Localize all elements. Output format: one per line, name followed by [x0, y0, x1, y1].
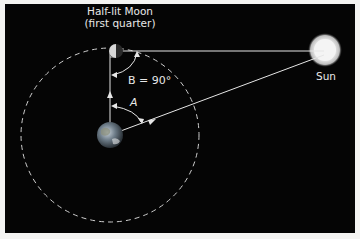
moon-icon [109, 44, 123, 58]
moon-label-line1: Half-lit Moon [80, 5, 160, 17]
angle-b-arrow-icon [111, 72, 117, 78]
earth-icon [97, 122, 123, 148]
earth-sun-arrow-icon [148, 119, 156, 125]
sun-icon [308, 33, 342, 67]
moon-label-line2: (first quarter) [80, 17, 160, 29]
angle-a-label: A [130, 97, 138, 109]
angle-b-label: B = 90° [128, 75, 171, 87]
angle-b-arrow2-icon [134, 51, 140, 57]
sun-label: Sun [316, 70, 336, 82]
diagram-canvas [0, 0, 360, 239]
earth-moon-arrow-icon [107, 91, 113, 98]
moon-label: Half-lit Moon (first quarter) [80, 5, 160, 29]
angle-a-arrow-icon [111, 103, 117, 109]
